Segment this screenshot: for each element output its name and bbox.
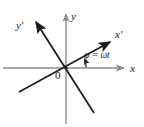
- x-prime-axis-label: x′: [115, 29, 122, 40]
- angle-annotation-label: φ = ωt: [84, 51, 110, 61]
- y-axis-label: y: [71, 11, 76, 22]
- y-prime-axis-label: y′: [16, 20, 23, 31]
- x-axis-label: x: [130, 63, 135, 74]
- origin-point: [64, 66, 67, 69]
- coordinate-system-figure: x y x′ y′ 0 φ = ωt: [0, 0, 144, 127]
- origin-label: 0: [55, 70, 61, 81]
